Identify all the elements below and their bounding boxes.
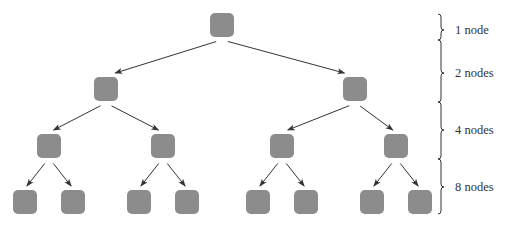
tree-edge-arrow: [288, 106, 349, 130]
tree-edge-arrow: [111, 106, 158, 130]
level-label-4: 4 nodes: [455, 123, 494, 137]
level-label-1: 1 node: [455, 23, 489, 37]
tree-edge-arrow: [141, 163, 159, 186]
curly-brace: [438, 40, 444, 102]
tree-edge-arrow: [374, 163, 392, 186]
tree-edge-arrow: [228, 41, 345, 73]
tree-node: [61, 190, 85, 214]
tree-edge-arrow: [286, 163, 304, 186]
level-braces: [438, 14, 444, 214]
tree-edge-arrow: [260, 163, 278, 186]
tree-edge-arrow: [27, 163, 45, 186]
binary-tree-diagram: 1 node 2 nodes 4 nodes 8 nodes: [0, 0, 505, 227]
tree-node: [127, 190, 151, 214]
tree-node: [343, 77, 367, 101]
tree-node: [151, 134, 175, 158]
tree-edge-arrow: [53, 163, 71, 186]
tree-node: [246, 190, 270, 214]
curly-brace: [438, 14, 444, 40]
tree-node: [294, 190, 318, 214]
level-label-8: 8 nodes: [455, 180, 494, 194]
tree-node: [13, 190, 37, 214]
tree-edge-arrow: [167, 163, 185, 186]
tree-node: [37, 134, 61, 158]
tree-nodes: [13, 13, 432, 214]
tree-node: [94, 77, 118, 101]
tree-node: [408, 190, 432, 214]
tree-node: [175, 190, 199, 214]
tree-node: [270, 134, 294, 158]
tree-edge-arrow: [400, 163, 418, 186]
level-label-2: 2 nodes: [455, 66, 494, 80]
curly-brace: [438, 102, 444, 159]
tree-node: [360, 190, 384, 214]
tree-node: [384, 134, 408, 158]
tree-edge-arrow: [360, 106, 393, 130]
tree-node: [210, 13, 234, 37]
tree-edges: [27, 41, 418, 186]
level-labels: 1 node 2 nodes 4 nodes 8 nodes: [455, 23, 494, 194]
tree-edge-arrow: [54, 106, 101, 130]
tree-edge-arrow: [115, 42, 216, 73]
curly-brace: [438, 159, 444, 214]
